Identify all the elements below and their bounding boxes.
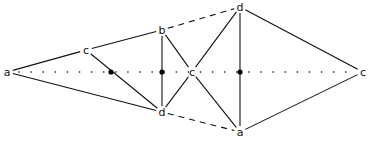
edge-c-upper-to-b bbox=[92, 32, 156, 49]
node-label-d-mid: d bbox=[159, 106, 166, 119]
node-label-c-upper: c bbox=[83, 44, 89, 57]
edge-c-upper-to-d-mid bbox=[91, 54, 158, 108]
edge-b-to-c-center bbox=[165, 35, 188, 67]
graph-diagram: acbddacc bbox=[0, 0, 368, 145]
edge-d-top-to-c-right bbox=[245, 10, 357, 69]
edge-a-left-to-c-upper bbox=[13, 52, 80, 71]
labels-layer: acbddacc bbox=[4, 1, 366, 139]
edge-d-top-to-c-center bbox=[196, 12, 237, 67]
edge-a-bottom-to-c-right bbox=[245, 75, 357, 130]
edge-d-mid-to-a-bottom bbox=[168, 113, 234, 130]
node-label-a-left: a bbox=[4, 66, 11, 79]
edge-a-left-to-d-mid bbox=[13, 73, 156, 110]
edge-b-to-d-top bbox=[168, 9, 234, 29]
edges-layer bbox=[13, 9, 358, 131]
junction-dot bbox=[159, 69, 164, 74]
node-label-c-center: c bbox=[189, 66, 195, 79]
edge-c-center-to-a-bottom bbox=[196, 77, 237, 128]
node-label-d-top: d bbox=[237, 1, 244, 14]
node-label-b: b bbox=[159, 24, 166, 37]
node-label-a-bottom: a bbox=[237, 126, 244, 139]
junction-dot bbox=[237, 69, 242, 74]
junction-dot bbox=[108, 69, 113, 74]
node-label-c-right: c bbox=[360, 66, 366, 79]
edge-c-center-to-d-mid bbox=[166, 77, 189, 107]
